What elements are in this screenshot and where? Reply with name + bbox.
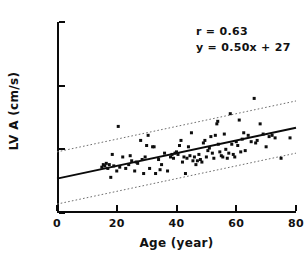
data-point: [227, 152, 230, 155]
data-point: [218, 150, 221, 153]
data-point: [129, 154, 132, 157]
data-point: [115, 169, 118, 172]
data-point: [147, 134, 150, 137]
data-point: [223, 133, 226, 136]
data-point: [166, 169, 169, 172]
upper-prediction-band: [57, 101, 296, 152]
data-point: [205, 155, 208, 158]
data-point: [172, 157, 175, 160]
data-point: [221, 155, 224, 158]
data-point: [111, 153, 114, 156]
data-point: [185, 157, 188, 160]
data-point: [112, 164, 115, 167]
data-point: [176, 153, 179, 156]
data-point: [233, 155, 236, 158]
data-point: [133, 169, 136, 172]
data-point: [179, 139, 182, 142]
data-point: [209, 135, 212, 138]
data-point: [239, 150, 242, 153]
data-point: [124, 167, 127, 170]
data-point: [265, 145, 268, 148]
data-point: [194, 163, 197, 166]
data-point: [238, 119, 241, 122]
data-point: [136, 162, 139, 165]
data-point: [108, 163, 111, 166]
data-point: [241, 138, 244, 141]
data-point: [148, 167, 151, 170]
data-point: [184, 172, 187, 175]
data-point: [157, 158, 160, 161]
data-point: [235, 140, 238, 143]
data-point: [259, 122, 262, 125]
data-point: [118, 166, 121, 169]
data-point: [247, 134, 250, 137]
data-point-markers: [100, 97, 291, 179]
data-point: [226, 157, 229, 160]
y-axis-title: LV A (cm/s): [7, 41, 21, 181]
data-layer: [57, 22, 296, 213]
data-point: [262, 133, 265, 136]
x-axis-tick-label: 40: [157, 218, 197, 229]
x-axis-tick-label: 0: [37, 218, 77, 229]
data-point: [145, 144, 148, 147]
data-point: [127, 163, 130, 166]
data-point: [193, 155, 196, 158]
data-point: [244, 149, 247, 152]
data-point: [229, 112, 232, 115]
data-point: [217, 143, 220, 146]
lower-prediction-band: [57, 153, 296, 204]
data-point: [191, 159, 194, 162]
data-point: [141, 158, 144, 161]
x-axis-tick-label: 60: [216, 218, 256, 229]
data-point: [253, 97, 256, 100]
data-point: [109, 176, 112, 179]
data-point: [212, 157, 215, 160]
data-point: [216, 120, 219, 123]
data-point: [171, 153, 174, 156]
data-point: [203, 139, 206, 142]
data-point: [182, 155, 185, 158]
data-point: [268, 135, 271, 138]
data-point: [196, 159, 199, 162]
data-point: [242, 131, 245, 134]
data-point: [142, 172, 145, 175]
data-point: [181, 161, 184, 164]
data-point: [211, 152, 214, 155]
data-point: [289, 136, 292, 139]
data-point: [117, 125, 120, 128]
data-point: [130, 159, 133, 162]
data-point: [139, 139, 142, 142]
data-point: [159, 168, 162, 171]
data-point: [236, 144, 239, 147]
data-point: [250, 140, 253, 143]
data-point: [187, 145, 190, 148]
data-point: [274, 136, 277, 139]
data-point: [230, 143, 233, 146]
data-point: [178, 144, 181, 147]
data-point: [224, 148, 227, 151]
data-point: [106, 167, 109, 170]
data-point: [144, 155, 147, 158]
data-point: [271, 134, 274, 137]
data-point: [280, 157, 283, 160]
data-point: [197, 153, 200, 156]
data-point: [163, 152, 166, 155]
data-point: [154, 172, 157, 175]
data-point: [256, 139, 259, 142]
data-point: [214, 134, 217, 137]
plot-area: 050100150 020406080: [57, 22, 296, 213]
data-point: [188, 154, 191, 157]
data-point: [160, 163, 163, 166]
data-point: [200, 161, 203, 164]
data-point: [190, 131, 193, 134]
x-axis-tick-label: 20: [97, 218, 137, 229]
data-point: [153, 145, 156, 148]
data-point: [105, 162, 108, 165]
x-axis-title: Age (year): [57, 236, 296, 250]
x-axis-tick-label: 80: [276, 218, 308, 229]
data-point: [208, 147, 211, 150]
scatter-plot-figure: r = 0.63 y = 0.50x + 27 050100150 020406…: [0, 0, 308, 257]
data-point: [121, 155, 124, 158]
